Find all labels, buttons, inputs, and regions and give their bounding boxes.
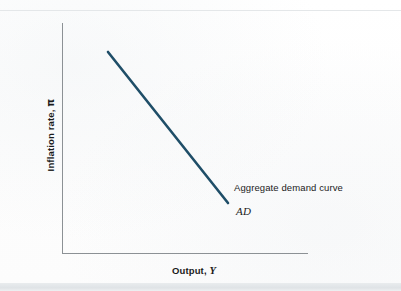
pi-symbol: π — [45, 99, 56, 107]
curve-name-label: Aggregate demand curve — [234, 182, 343, 193]
y-axis-title-text: Inflation rate, — [45, 107, 56, 172]
curve-symbol-label: AD — [236, 205, 251, 217]
plot-area: Inflation rate, π Output, Y Aggregate de… — [0, 0, 401, 291]
output-symbol: Y — [210, 265, 217, 276]
y-axis-title: Inflation rate, π — [45, 99, 56, 172]
x-axis-title-text: Output, — [172, 265, 210, 276]
ad-curve-line — [108, 52, 228, 203]
figure-container: Inflation rate, π Output, Y Aggregate de… — [0, 0, 401, 291]
page-bottom-band — [0, 283, 401, 291]
x-axis-title: Output, Y — [172, 265, 216, 276]
aggregate-demand-curve — [0, 0, 401, 291]
